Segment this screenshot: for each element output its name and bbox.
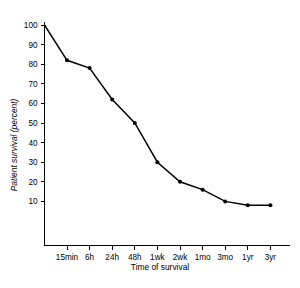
y-tick-label: 90: [28, 41, 38, 50]
x-tick-label: 1mo: [195, 253, 211, 262]
y-tick-label: 20: [28, 178, 38, 187]
data-point-marker: [246, 203, 250, 207]
y-tick-label: 50: [28, 119, 38, 128]
data-point-marker: [88, 66, 92, 70]
y-tick-label: 30: [28, 158, 38, 167]
data-point-marker: [223, 199, 227, 203]
y-tick-label: 60: [28, 99, 38, 108]
x-tick-label: 6h: [85, 253, 95, 262]
chart-figure: 102030405060708090100 15min6h24h48h1wk2w…: [0, 0, 300, 288]
x-tick-label: 24h: [105, 253, 119, 262]
data-point-marker: [268, 203, 272, 207]
data-point-marker: [65, 58, 69, 62]
x-tick-label: 2wk: [173, 253, 188, 262]
y-axis-title: Patient survival (percent): [9, 98, 19, 191]
x-tick-label: 3mo: [217, 253, 233, 262]
x-axis-title: Time of survival: [131, 262, 189, 272]
y-tick-label: 100: [24, 21, 38, 30]
x-tick-label: 1yr: [242, 253, 254, 262]
x-tick-label: 48h: [128, 253, 142, 262]
data-point-marker: [201, 188, 205, 192]
y-tick-label: 40: [28, 139, 38, 148]
data-point-marker: [178, 180, 182, 184]
data-point-marker: [133, 121, 137, 125]
y-tick-label: 80: [28, 60, 38, 69]
survival-line-chart: 102030405060708090100 15min6h24h48h1wk2w…: [0, 0, 300, 288]
x-tick-label: 15min: [56, 253, 79, 262]
data-point-marker: [155, 160, 159, 164]
y-tick-label: 70: [28, 80, 38, 89]
x-tick-label: 3yr: [265, 253, 277, 262]
data-point-marker: [110, 97, 114, 101]
x-tick-label: 1wk: [150, 253, 165, 262]
y-tick-label: 10: [28, 197, 38, 206]
